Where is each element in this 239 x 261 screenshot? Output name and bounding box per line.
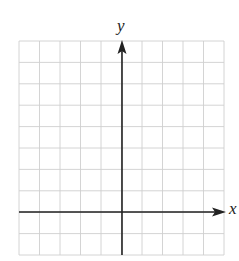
- coordinate-grid: [0, 0, 239, 261]
- x-axis-label: x: [229, 200, 237, 217]
- y-axis: [118, 40, 127, 255]
- y-axis-label: y: [117, 17, 125, 34]
